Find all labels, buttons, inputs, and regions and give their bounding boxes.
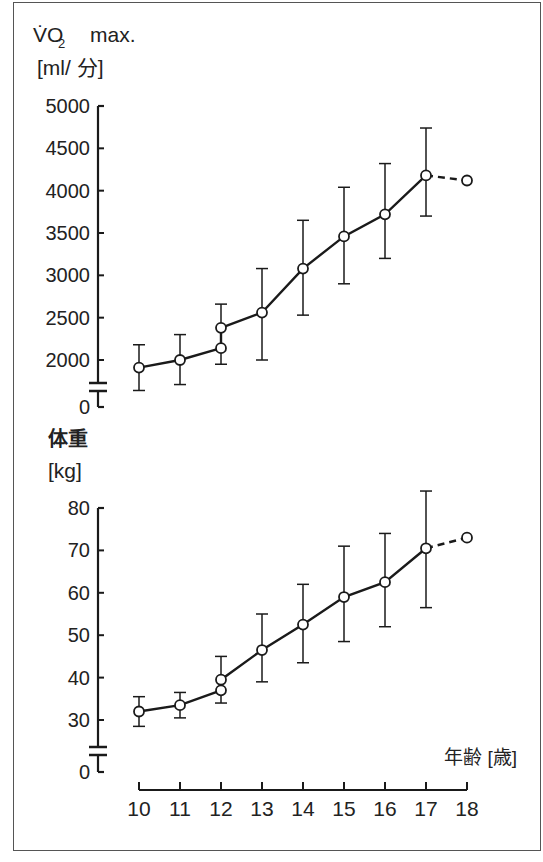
x-tick-labels: 101112131415161718 — [127, 797, 478, 820]
y-tick-label: 4000 — [46, 180, 91, 202]
y-tick-label: 30 — [68, 709, 90, 731]
y-tick-label: 5000 — [46, 95, 91, 117]
x-tick-label: 10 — [127, 797, 150, 820]
vo2-subscript: 2 — [58, 36, 65, 51]
x-axis — [139, 782, 467, 790]
weight-unit-label: [kg] — [48, 459, 82, 482]
y-tick-label: 70 — [68, 539, 90, 561]
y-tick-label: 0 — [79, 396, 90, 418]
vo2-max-label: max. — [90, 23, 136, 46]
x-tick-label: 15 — [332, 797, 355, 820]
data-point-marker — [216, 343, 226, 353]
y-tick-label: 2000 — [46, 349, 91, 371]
data-point-marker — [339, 231, 349, 241]
data-point-marker — [380, 577, 390, 587]
x-tick-label: 16 — [373, 797, 396, 820]
data-point-marker — [380, 209, 390, 219]
x-tick-label: 18 — [455, 797, 478, 820]
weight-label: 体重 — [48, 427, 88, 450]
y-tick-label: 0 — [79, 761, 90, 783]
data-point-marker — [421, 170, 431, 180]
data-point-marker — [462, 533, 472, 543]
y-tick-label: 2500 — [46, 307, 91, 329]
series-line — [139, 548, 426, 711]
y-tick-label: 3000 — [46, 264, 91, 286]
data-point-marker — [175, 355, 185, 365]
top-y-axis — [89, 106, 107, 407]
data-point-marker — [339, 592, 349, 602]
data-point-marker — [134, 363, 144, 373]
bottom-y-tick-labels: 8070605040300 — [68, 497, 90, 783]
data-point-marker — [216, 323, 226, 333]
top-y-tick-labels: 50004500400035003000250020000 — [46, 95, 91, 418]
data-point-marker — [175, 700, 185, 710]
y-tick-label: 40 — [68, 667, 90, 689]
bottom-y-axis-title: 体重 [kg] — [48, 427, 88, 482]
y-tick-label: 80 — [68, 497, 90, 519]
data-point-marker — [462, 176, 472, 186]
y-tick-label: 3500 — [46, 222, 91, 244]
x-tick-label: 13 — [250, 797, 273, 820]
data-point-marker — [421, 543, 431, 553]
x-tick-label: 17 — [414, 797, 437, 820]
data-point-marker — [134, 707, 144, 717]
chart-canvas: V̇O 2 max. [ml/ 分] 500045004000350030002… — [0, 0, 543, 862]
vo2-unit-label: [ml/ 分] — [37, 56, 104, 79]
top-y-axis-title: V̇O 2 max. [ml/ 分] — [33, 23, 136, 79]
bottom-series-weight — [133, 491, 472, 726]
x-tick-label: 14 — [291, 797, 315, 820]
x-axis-title: 年齢 [歳] — [444, 747, 517, 768]
bottom-y-axis — [89, 508, 107, 772]
top-series-vo2max — [133, 128, 472, 390]
dashed-connector — [426, 538, 467, 549]
dashed-connector — [426, 175, 467, 180]
data-point-marker — [298, 264, 308, 274]
y-tick-label: 60 — [68, 582, 90, 604]
x-tick-label: 12 — [209, 797, 232, 820]
series-line — [139, 175, 426, 367]
data-point-marker — [298, 620, 308, 630]
data-point-marker — [216, 685, 226, 695]
y-tick-label: 50 — [68, 624, 90, 646]
y-tick-label: 4500 — [46, 137, 91, 159]
x-tick-label: 11 — [169, 797, 191, 820]
data-point-marker — [257, 308, 267, 318]
data-point-marker — [216, 675, 226, 685]
data-point-marker — [257, 645, 267, 655]
